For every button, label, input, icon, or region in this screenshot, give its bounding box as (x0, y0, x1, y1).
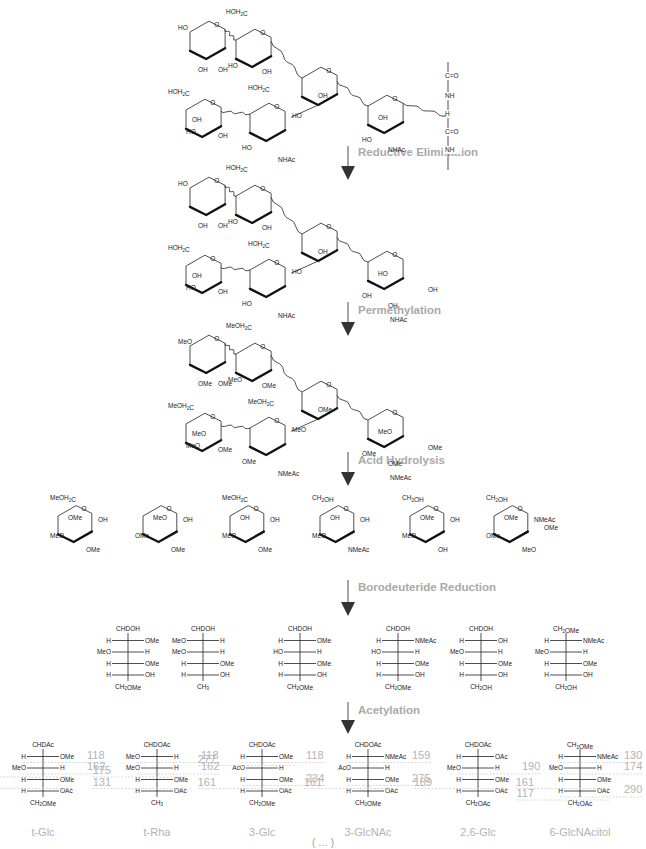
hydrolysis-product: OCH2OHOMeOMeMeONMeAcOMe (486, 494, 558, 553)
left-substituent: H (346, 753, 351, 760)
alditol-fischer-projection: CHDOHHOMeMeOHHOMeHOHCH2OMe (97, 625, 160, 691)
right-substituent: H (145, 648, 150, 655)
glycosidic-bond (221, 111, 250, 115)
substituent-label: NHAc (278, 312, 296, 319)
substituent-label: HO (292, 268, 302, 275)
substituent-label: NMeAc (390, 474, 412, 481)
substituent-label: OMe (318, 406, 332, 413)
ms-fragment-mass: 130 (624, 749, 642, 761)
c6-substituent: CH2OH (312, 494, 334, 503)
ring-front-bond (368, 122, 403, 133)
down-arrow-icon (341, 472, 355, 486)
right-substituent: H (279, 764, 284, 771)
right-substituent: H (220, 648, 225, 655)
left-substituent: H (278, 660, 283, 667)
partially-methylated-alditol-acetates: CHDAcHOMeMeOHHOMeHOAcCH2OMe205161118162t… (0, 741, 644, 838)
right-substituent: OMe (317, 660, 331, 667)
right-substituent: H (317, 648, 322, 655)
alditol-fischer-projection: CH2OMeHNMeAcMeOHHOMeHOHCH2OH (535, 625, 605, 691)
substituent-label: HOH2C (168, 88, 190, 97)
ring-oxygen: O (253, 505, 258, 512)
figure-caption: ( … ) (312, 837, 334, 848)
substituent-label: MeO (228, 376, 242, 383)
glycosidic-bond (271, 41, 302, 78)
c1-group: CHDOAc (465, 741, 492, 748)
substituent-label: OMe (262, 382, 276, 389)
substituent-label: OMe (68, 514, 82, 521)
ring-oxygen: O (343, 505, 348, 512)
alditol-fischer-projection: CHDOHHNMeAcHOHHOMeHOHCH2OMe (371, 625, 437, 691)
left-substituent: H (181, 660, 186, 667)
right-substituent: NMeAc (597, 753, 619, 760)
substituent-label: HOH2C (248, 84, 270, 93)
substituent-label: OH (198, 66, 208, 73)
right-substituent: OH (498, 637, 508, 644)
glycosidic-bond (403, 103, 446, 116)
right-substituent: H (60, 764, 65, 771)
down-arrow-icon (341, 166, 355, 180)
c6-substituent: MeOH2C (50, 494, 76, 503)
right-substituent: OAc (495, 787, 508, 794)
sugar-residue: O (250, 103, 285, 141)
ring-oxygen: O (260, 185, 265, 192)
right-substituent: OMe (498, 660, 512, 667)
sugar-residue: O (190, 21, 225, 59)
right-substituent: OH (317, 671, 327, 678)
substituent-label: MeO (186, 442, 200, 449)
sugar-residue: O (250, 417, 285, 455)
left-substituent: H (278, 671, 283, 678)
left-substituent: H (135, 787, 140, 794)
left-substituent: H (376, 660, 381, 667)
substituent-label: MeO (522, 546, 536, 553)
substituent-label: OMe (258, 546, 272, 553)
substituent-label: OH (438, 546, 448, 553)
substituent-label: OH (192, 272, 202, 279)
left-substituent: H (376, 637, 381, 644)
substituent-label: MeO (222, 532, 236, 539)
right-substituent: OH (220, 671, 230, 678)
ring-front-bond (368, 436, 403, 447)
terminal-group: CH2OAc (466, 799, 491, 808)
ring-front-bond (250, 444, 285, 455)
sugar-residue: O (302, 381, 337, 419)
residue-name: t-Glc (31, 826, 55, 838)
left-substituent: H (459, 671, 464, 678)
right-substituent: H (174, 764, 179, 771)
sugar-residue: O (190, 335, 225, 373)
ring-oxygen: O (274, 417, 279, 424)
substituent-label: OMe (242, 458, 256, 465)
right-substituent: OH (583, 671, 593, 678)
substituent-label: OH (240, 514, 250, 521)
substituent-label: OMe (486, 532, 500, 539)
glycosidic-bond (221, 425, 250, 429)
right-substituent: OMe (583, 660, 597, 667)
ring-oxygen: O (392, 251, 397, 258)
left-substituent: HO (371, 648, 381, 655)
ring-front-bond (368, 278, 403, 289)
substituent-label: MeOH2C (168, 402, 194, 411)
ring-front-bond (250, 130, 285, 141)
substituent-label: MeO (312, 532, 326, 539)
right-substituent: NMeAc (583, 637, 605, 644)
c1-group: CHDOAc (355, 741, 382, 748)
hydrolysis-product: OMeOH2COMeMeOOMeOH (50, 494, 108, 553)
c6-substituent: CH2OH (402, 494, 424, 503)
left-substituent: H (558, 787, 563, 794)
peptide-group: C=O (445, 128, 459, 135)
ring-bond (236, 343, 271, 373)
right-substituent: H (415, 648, 420, 655)
glycosidic-bond (337, 395, 368, 420)
left-substituent: H (456, 787, 461, 794)
c1-group: CH2OMe (567, 741, 593, 750)
substituent-label: MeOH2C (226, 322, 252, 331)
left-substituent: H (456, 776, 461, 783)
terminal-group: CH3 (151, 799, 163, 808)
substituent-label: OH (218, 132, 228, 139)
substituent-label: OH (450, 516, 460, 523)
substituent-label: OH (218, 222, 228, 229)
peptide-group: NH (445, 92, 455, 99)
ring-bond (190, 335, 225, 365)
ms-fragment-mass: 174 (624, 760, 642, 772)
substituent-label: MeO (378, 428, 392, 435)
right-substituent: OMe (220, 660, 234, 667)
